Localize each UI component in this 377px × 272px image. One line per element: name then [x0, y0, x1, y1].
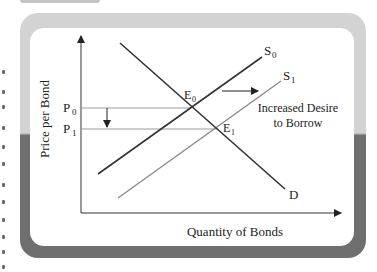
s0-label: S 0	[264, 43, 277, 60]
annotation-line-1: Increased Desire	[258, 101, 338, 115]
p1-letter: P	[63, 121, 70, 136]
s0-subscript: 0	[272, 50, 277, 60]
p0-subscript: 0	[72, 107, 77, 117]
p1-label: P 1	[63, 121, 77, 138]
s1-subscript: 1	[291, 75, 296, 85]
e1-subscript: 1	[231, 128, 235, 137]
supply-curve-s1	[118, 81, 281, 198]
y-axis-label: Price per Bond	[37, 80, 52, 158]
annotation-line-2: to Borrow	[274, 116, 323, 130]
e0-label: E 0	[184, 88, 196, 104]
e1-letter: E	[223, 121, 230, 135]
s1-letter: S	[283, 68, 290, 83]
p0-letter: P	[63, 100, 70, 115]
demand-curve-d	[120, 43, 285, 189]
e0-letter: E	[184, 88, 191, 102]
x-axis-label: Quantity of Bonds	[187, 224, 283, 239]
supply-curve-s0	[98, 57, 262, 174]
e0-subscript: 0	[192, 95, 196, 104]
s0-letter: S	[264, 43, 271, 58]
p0-label: P 0	[63, 100, 77, 117]
p1-subscript: 1	[72, 128, 77, 138]
d-label: D	[289, 187, 298, 202]
e1-label: E 1	[223, 121, 235, 137]
s1-label: S 1	[283, 68, 296, 85]
bond-market-diagram: Price per Bond Quantity of Bonds P 0 P 1…	[0, 0, 377, 272]
